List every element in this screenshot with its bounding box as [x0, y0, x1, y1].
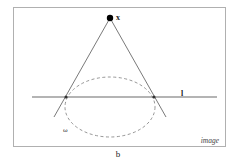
conic-omega	[65, 77, 155, 137]
frame-image-label: image	[201, 136, 220, 145]
point-x-label: x	[116, 13, 120, 22]
intersection-point-left	[65, 96, 68, 99]
cone-line-right	[110, 18, 166, 117]
intersection-point-right	[153, 96, 156, 99]
cone-line-left	[54, 18, 110, 117]
figure-caption: b	[116, 149, 121, 159]
conic-omega-label: ω	[63, 126, 68, 134]
point-x	[107, 15, 113, 21]
image-frame	[14, 8, 226, 147]
diagram-canvas: x l ω image b	[0, 0, 237, 162]
